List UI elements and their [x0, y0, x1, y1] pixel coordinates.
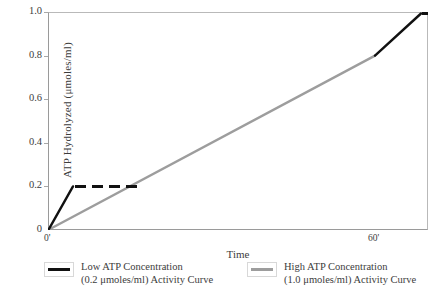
legend-item-high-atp: High ATP Concentration (1.0 μmoles/ml) A… [247, 260, 416, 286]
legend-label-low-atp-line1: Low ATP Concentration [81, 261, 183, 272]
legend-item-low-atp: Low ATP Concentration (0.2 μmoles/ml) Ac… [44, 260, 213, 286]
y-tick-label-0-6: 0.6 [14, 93, 42, 104]
high-atp-black-rise [375, 14, 421, 56]
y-tick-label-0-2: 0.2 [14, 180, 42, 191]
high-atp-solid-line [48, 56, 375, 230]
plot-area: ATP Hydrolyzed (μmoles/ml) 1.0 0.8 0.6 0… [48, 12, 428, 230]
legend-label-high-atp: High ATP Concentration (1.0 μmoles/ml) A… [284, 260, 416, 286]
legend-label-high-atp-line2: (1.0 μmoles/ml) Activity Curve [284, 274, 416, 285]
y-tick-label-0-4: 0.4 [14, 137, 42, 148]
y-tick-label-0-8: 0.8 [14, 50, 42, 61]
legend-label-low-atp: Low ATP Concentration (0.2 μmoles/ml) Ac… [81, 260, 213, 286]
legend-label-high-atp-line1: High ATP Concentration [284, 261, 387, 272]
chart-figure: ATP Hydrolyzed (μmoles/ml) 1.0 0.8 0.6 0… [0, 0, 442, 293]
chart-legend: Low ATP Concentration (0.2 μmoles/ml) Ac… [0, 258, 442, 293]
x-tick-label-60: 60' [368, 234, 379, 244]
legend-line-icon [48, 268, 70, 271]
y-tick-label-0: 0 [14, 224, 42, 235]
chart-curves [48, 12, 428, 230]
legend-label-low-atp-line2: (0.2 μmoles/ml) Activity Curve [81, 274, 213, 285]
legend-swatch-high-atp [247, 262, 277, 277]
legend-line-icon [251, 268, 273, 271]
legend-swatch-low-atp [44, 262, 74, 277]
x-tick-label-0: 0' [44, 234, 50, 244]
y-tick-label-1-0: 1.0 [14, 6, 42, 17]
